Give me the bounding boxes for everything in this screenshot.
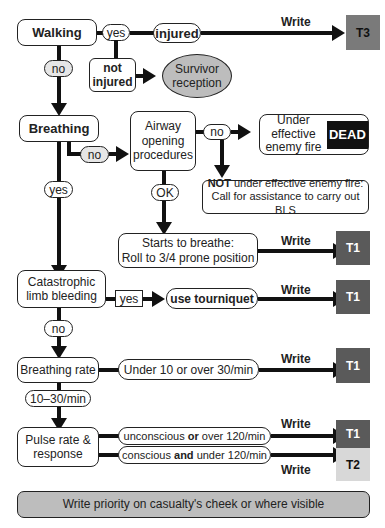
tag-t2: T2 [336,448,370,481]
no-label-walking: no [44,60,73,77]
survivor-reception-ellipse: Survivorreception [162,54,232,98]
tag-t1: T1 [336,420,370,448]
starts-breathe-box: Starts to breathe:Roll to 3/4 prone posi… [118,233,258,268]
conscious-box: conscious and under 120/min [118,446,271,464]
no-label-airway: no [203,124,231,140]
pulse-box: Pulse rate &response [17,427,99,467]
injured-box: injured [153,23,201,43]
no-label-breathing: no [80,146,109,163]
walking-box: Walking [17,19,97,46]
tag-t3: T3 [346,15,380,50]
yes-label-breathing: yes [44,181,73,198]
not-under-fire-box: NOT under effective enemy fire: Call for… [202,180,369,214]
yes-label-catastrophic: yes [115,290,143,307]
tag-t1: T1 [336,280,370,314]
unconscious-box: unconscious or over 120/min [118,427,271,445]
ok-label: OK [151,184,179,201]
combat-box: Or if in combatreturn tofighting force [218,51,316,103]
write-label: Write [281,417,311,431]
tag-t1: T1 [336,348,370,383]
airway-box: Airwayopeningprocedures [130,111,196,171]
tourniquet-box: use tourniquet [166,288,258,309]
write-label: Write [281,283,311,297]
breathing-box: Breathing [19,115,99,142]
no-label-catastrophic: no [44,320,73,337]
under-fire-box: Undereffectiveenemy fire DEAD [259,114,369,155]
breathing-rate-box: Breathing rate [17,357,99,383]
footer-banner: Write priority on casualty's cheek or wh… [17,491,370,518]
catastrophic-box: Catastrophiclimb bleeding [17,270,106,308]
write-label: Write [281,463,311,477]
tag-t1: T1 [336,231,370,265]
write-label: Write [281,234,311,248]
not-injured-box: notinjured [89,58,136,92]
rate-normal-label: 10–30/min [25,390,91,407]
dead-tag: DEAD [327,121,368,149]
write-label: Write [281,352,311,366]
rate-abnormal-box: Under 10 or over 30/min [118,359,259,380]
write-label: Write [281,15,311,29]
yes-label-walking: yes [102,24,130,41]
